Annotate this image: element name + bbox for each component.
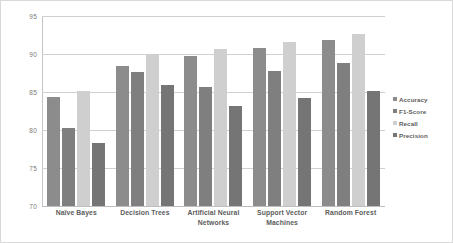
y-axis-tick-label: 95 xyxy=(29,13,37,20)
gridline xyxy=(42,206,385,207)
bar-slots xyxy=(316,16,385,206)
bar xyxy=(199,87,212,206)
x-axis-tick-label: Naïve Bayes xyxy=(42,208,111,227)
x-axis-tick-label: Decision Trees xyxy=(111,208,180,227)
bar-chart: 959085807570 Naïve BayesDecision TreesAr… xyxy=(0,0,453,243)
bar xyxy=(62,128,75,206)
legend-item-label: Recall xyxy=(399,120,418,127)
bar xyxy=(337,63,350,206)
bar-slots xyxy=(111,16,180,206)
bar-slots xyxy=(248,16,317,206)
bar xyxy=(298,98,311,206)
bar xyxy=(214,49,227,206)
bar-group xyxy=(42,16,111,206)
bar-group xyxy=(316,16,385,206)
legend-item[interactable]: Precision xyxy=(393,129,451,141)
bar xyxy=(268,71,281,206)
bar xyxy=(367,91,380,206)
x-axis-tick-label: Random Forest xyxy=(316,208,385,227)
bar xyxy=(116,66,129,206)
legend-swatch-icon xyxy=(393,109,397,113)
bar xyxy=(161,85,174,206)
bar xyxy=(253,48,266,206)
legend-item[interactable]: F1-Score xyxy=(393,105,451,117)
bar xyxy=(184,56,197,206)
bar-group xyxy=(248,16,317,206)
legend-item-label: F1-Score xyxy=(399,108,426,115)
bar-slots xyxy=(179,16,248,206)
legend-item[interactable]: Recall xyxy=(393,117,451,129)
bar xyxy=(131,72,144,206)
y-axis-tick-label: 90 xyxy=(29,51,37,58)
x-axis-tick-label: Artificial Neural Networks xyxy=(179,208,248,227)
legend-swatch-icon xyxy=(393,121,397,125)
bar-group xyxy=(111,16,180,206)
x-axis-tick-label: Support Vector Machines xyxy=(248,208,317,227)
y-axis-tick-label: 85 xyxy=(29,89,37,96)
bar xyxy=(146,54,159,206)
bar-group xyxy=(179,16,248,206)
y-axis-tick-label: 70 xyxy=(29,203,37,210)
bar xyxy=(229,106,242,206)
x-axis-tick-labels: Naïve BayesDecision TreesArtificial Neur… xyxy=(42,208,385,227)
bars-layer xyxy=(42,16,385,206)
bar xyxy=(77,91,90,206)
bar xyxy=(47,97,60,206)
bar xyxy=(322,40,335,206)
chart-legend: AccuracyF1-ScoreRecallPrecision xyxy=(393,93,451,141)
legend-item-label: Precision xyxy=(399,132,428,139)
bar xyxy=(283,42,296,206)
legend-item-label: Accuracy xyxy=(399,96,428,103)
bar-slots xyxy=(42,16,111,206)
plot-area: 959085807570 xyxy=(42,16,385,206)
bar xyxy=(352,34,365,206)
legend-swatch-icon xyxy=(393,97,397,101)
legend-item[interactable]: Accuracy xyxy=(393,93,451,105)
y-axis-tick-label: 80 xyxy=(29,127,37,134)
legend-swatch-icon xyxy=(393,133,397,137)
y-axis-tick-label: 75 xyxy=(29,165,37,172)
bar xyxy=(92,143,105,206)
